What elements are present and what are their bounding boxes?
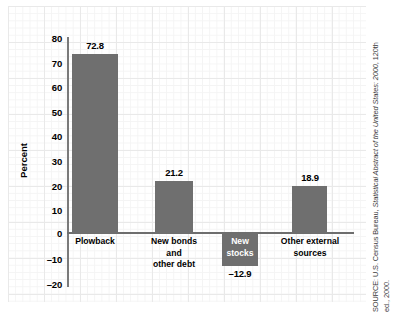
category-label-plowback: Plowback xyxy=(60,236,130,248)
y-tick-30: 30 xyxy=(30,156,62,167)
chart-page: Percent 80 70 60 50 40 30 20 10 0 –10 –2… xyxy=(0,0,412,318)
category-label-new-bonds: New bonds and other debt xyxy=(136,236,212,271)
y-tick-60: 60 xyxy=(30,82,62,93)
y-tick-10: 10 xyxy=(30,205,62,216)
y-tick-80: 80 xyxy=(30,33,62,44)
source-citation-line2: ed., 2000. xyxy=(382,280,391,312)
source-citation: SOURCE: U.S. Census Bureau, Statistical … xyxy=(366,0,412,318)
bar-value-new-stocks: –12.9 xyxy=(210,268,270,279)
y-tick-40: 40 xyxy=(30,131,62,142)
y-tick-neg20: –20 xyxy=(30,279,62,290)
bar-plowback[interactable] xyxy=(72,54,118,233)
y-tick-0: 0 xyxy=(30,228,62,239)
source-suffix: , 120th xyxy=(371,42,380,64)
category-label-line1: New xyxy=(218,236,262,248)
category-label-line1: Other external xyxy=(268,236,352,248)
y-tick-20: 20 xyxy=(30,181,62,192)
bar-other-external-sources[interactable] xyxy=(292,186,327,233)
source-prefix: SOURCE: U.S. Census Bureau, xyxy=(371,208,380,312)
bar-chart-plot: Percent 80 70 60 50 40 30 20 10 0 –10 –2… xyxy=(0,0,412,318)
y-axis-title: Percent xyxy=(18,131,29,191)
source-citation-line1: SOURCE: U.S. Census Bureau, Statistical … xyxy=(371,42,380,312)
bar-value-new-bonds: 21.2 xyxy=(144,167,204,178)
category-label-other-external: Other external sources xyxy=(268,236,352,259)
y-tick-70: 70 xyxy=(30,58,62,69)
category-label-line2: sources xyxy=(268,248,352,260)
bar-new-bonds-and-other-debt[interactable] xyxy=(155,181,193,233)
y-tick-neg10: –10 xyxy=(30,254,62,265)
y-tick-50: 50 xyxy=(30,107,62,118)
category-label-line1: New bonds xyxy=(136,236,212,248)
category-label-new-stocks: New stocks xyxy=(218,236,262,259)
category-label-line2: stocks xyxy=(218,248,262,260)
category-label-line3: other debt xyxy=(136,259,212,271)
y-axis-line xyxy=(67,37,69,287)
category-label-line2: and xyxy=(136,248,212,260)
bar-value-other-external: 18.9 xyxy=(280,172,340,183)
bar-value-plowback: 72.8 xyxy=(65,40,125,51)
source-title-italic: Statistical Abstract of the United State… xyxy=(371,64,380,207)
